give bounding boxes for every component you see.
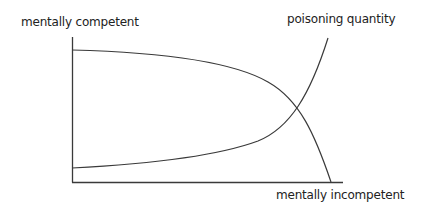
poisoning-quantity-curve xyxy=(72,38,328,168)
diagram-canvas xyxy=(0,0,428,217)
competence-curve xyxy=(72,50,331,182)
